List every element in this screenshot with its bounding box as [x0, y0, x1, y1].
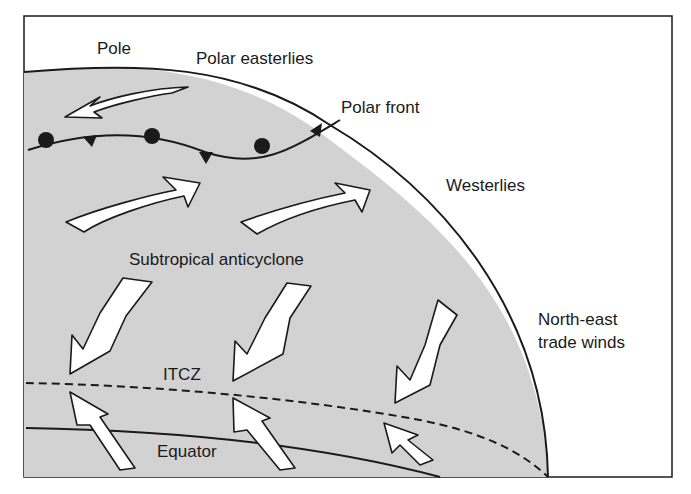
warm-front-symbol	[38, 132, 54, 148]
label-equator: Equator	[157, 442, 217, 462]
label-ne-trades-line1: North-east	[538, 310, 617, 330]
label-westerlies: Westerlies	[446, 176, 525, 196]
warm-front-symbol	[254, 138, 270, 154]
label-subtropical-anticyclone: Subtropical anticyclone	[129, 250, 304, 270]
label-polar-easterlies: Polar easterlies	[196, 49, 313, 69]
label-itcz: ITCZ	[163, 365, 201, 385]
warm-front-symbol	[144, 128, 160, 144]
label-ne-trades-line2: trade winds	[538, 333, 625, 353]
circulation-diagram	[0, 0, 691, 494]
label-polar-front: Polar front	[341, 98, 419, 118]
label-pole: Pole	[97, 39, 131, 59]
